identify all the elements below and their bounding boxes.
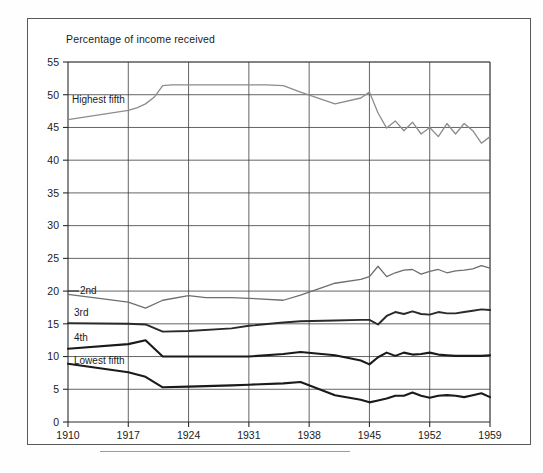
x-tick-label-1924: 1924 [177, 429, 201, 441]
y-tick-label-10: 10 [47, 350, 59, 362]
y-tick-label-45: 45 [47, 121, 59, 133]
series-label-second: 2nd [80, 285, 97, 296]
y-tick-label-55: 55 [47, 56, 59, 68]
x-tick-label-1917: 1917 [117, 429, 141, 441]
series-line-2nd [68, 266, 490, 309]
x-tick-label-1945: 1945 [358, 429, 382, 441]
series-label-highest: Highest fifth [72, 94, 125, 105]
figure-root: Percentage of income received 0510152025… [0, 0, 543, 473]
x-tick-label-1959: 1959 [478, 429, 502, 441]
line-chart-canvas: 0510152025303540455055 19101917192419311… [0, 0, 543, 473]
y-tick-label-20: 20 [47, 285, 59, 297]
axis-lines [68, 62, 490, 422]
y-tick-label-50: 50 [47, 89, 59, 101]
series-line-lowest-fifth [68, 364, 490, 403]
series-line-highest-fifth [68, 85, 490, 143]
y-tick-label-40: 40 [47, 154, 59, 166]
x-tick-label-1910: 1910 [56, 429, 80, 441]
x-tick-label-1952: 1952 [418, 429, 442, 441]
x-tick-label-1931: 1931 [237, 429, 261, 441]
series-inline-labels: Highest fifth2nd3rd4thLowest fifth [68, 94, 125, 366]
x-axis-tick-labels: 19101917192419311938194519521959 [56, 429, 502, 441]
y-tick-label-15: 15 [47, 318, 59, 330]
series-label-lowest: Lowest fifth [74, 355, 125, 366]
series-line-3rd [68, 309, 490, 331]
y-tick-label-25: 25 [47, 252, 59, 264]
series-label-fourth: 4th [74, 332, 88, 343]
y-tick-label-35: 35 [47, 187, 59, 199]
data-series-lines [68, 85, 490, 402]
bottom-rule-divider [100, 451, 350, 452]
y-tick-label-30: 30 [47, 219, 59, 231]
gridlines-horizontal [68, 62, 490, 389]
y-tick-label-0: 0 [53, 416, 59, 428]
y-tick-label-5: 5 [53, 383, 59, 395]
y-axis-tick-labels: 0510152025303540455055 [47, 56, 59, 428]
x-tick-label-1938: 1938 [297, 429, 321, 441]
series-line-4th [68, 340, 490, 364]
gridlines-vertical [128, 62, 490, 422]
series-label-third: 3rd [74, 307, 88, 318]
